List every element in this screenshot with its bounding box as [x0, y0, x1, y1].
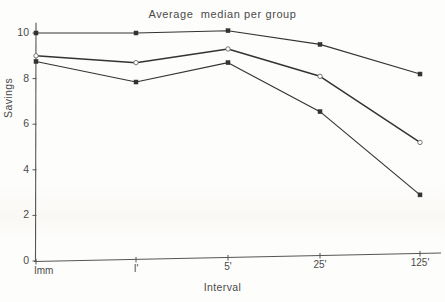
x-tick-label: 5' [224, 261, 231, 272]
y-axis-label: Savings [2, 78, 14, 118]
data-point-marker [134, 80, 138, 84]
data-point-marker [134, 60, 138, 64]
data-point-marker [418, 72, 422, 76]
chart-figure: Average median per group Savings Interva… [0, 0, 445, 302]
data-point-marker [418, 193, 422, 197]
y-tick-label: 8 [5, 72, 29, 84]
x-tick-label: Imm [34, 265, 53, 276]
x-tick-label: 125' [411, 257, 430, 268]
plot-area [0, 0, 445, 302]
data-point-marker [318, 110, 322, 114]
series-line-top-curve [36, 31, 420, 74]
data-point-marker [418, 140, 422, 144]
data-point-marker [318, 74, 322, 78]
x-tick-label: 25' [313, 259, 326, 270]
series-line-lower-curve [36, 62, 420, 195]
data-point-marker [226, 29, 230, 33]
data-point-marker [34, 54, 38, 58]
y-tick-label: 10 [5, 26, 29, 38]
data-point-marker [34, 31, 38, 35]
y-tick-label: 2 [5, 208, 29, 220]
data-point-marker [134, 31, 138, 35]
y-tick-label: 6 [5, 117, 29, 129]
data-point-marker [318, 42, 322, 46]
data-point-marker [34, 60, 38, 64]
data-point-marker [226, 61, 230, 65]
y-tick-label: 4 [5, 163, 29, 175]
data-point-marker [226, 47, 230, 51]
x-axis-label: Interval [0, 281, 445, 293]
y-tick-label: 0 [5, 254, 29, 266]
x-axis-line [34, 253, 441, 262]
x-tick-label: I' [134, 263, 139, 274]
